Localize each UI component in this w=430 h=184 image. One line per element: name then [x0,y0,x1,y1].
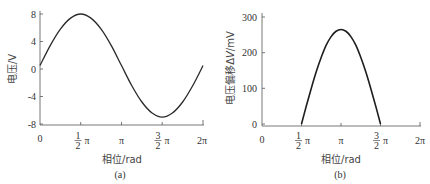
chart-b-ytick-0: 0 [252,119,257,130]
chart-b-x-axis-label: 相位/rad [321,153,361,165]
svg-text:π: π [84,135,89,146]
chart-a-ytick-0: 0 [31,64,36,75]
chart-b-xtick-half-pi: 1 2 π [295,130,310,151]
chart-b-xtick-0: 0 [260,134,265,145]
chart-a-voltage-curve [40,14,203,117]
figure: 8 4 0 -4 -8 0 1 2 π π 3 2 π 2π 相位/rad [0,0,430,184]
chart-a-xtick-2pi: 2π [197,135,207,146]
chart-a-x-ticks [81,120,203,125]
chart-b-xtick-pi: π [338,135,343,146]
chart-a-y-ticks [40,14,43,124]
svg-text:2: 2 [296,140,301,151]
chart-b-x-ticks [302,122,421,126]
chart-b-y-axis-label: 电压偏移ΔV/mV [224,31,236,105]
svg-text:π: π [164,135,169,146]
chart-a-caption: (a) [114,169,125,181]
chart-a-xtick-three-half-pi: 3 2 π [155,130,170,151]
chart-b-ytick-100: 100 [242,83,257,94]
chart-a-xtick-pi: π [119,135,124,146]
chart-b-voltage-offset-curve [302,29,381,124]
svg-text:π: π [305,135,310,146]
chart-a-xtick-0: 0 [38,133,43,144]
chart-b-xtick-three-half-pi: 3 2 π [373,130,388,151]
chart-b-ytick-200: 200 [242,47,257,58]
chart-b-caption: (b) [334,169,346,181]
chart-a-ytick-neg8: -8 [28,119,36,130]
svg-text:2: 2 [374,140,379,151]
chart-b-xtick-2pi: 2π [415,135,425,146]
chart-b-ytick-300: 300 [242,12,257,23]
svg-text:2: 2 [156,140,161,151]
chart-a-y-axis-label: 电压/V [6,54,18,84]
chart-a-xtick-half-pi: 1 2 π [75,130,90,151]
chart-b-y-ticks [262,17,265,124]
chart-a-x-axis-label: 相位/rad [102,153,142,165]
chart-a-ytick-4: 4 [31,36,36,47]
svg-text:2: 2 [76,140,81,151]
chart-a-ytick-neg4: -4 [28,91,36,102]
chart-b: 300 200 100 0 0 1 2 π π 3 2 π 2π 相位/rad … [224,12,425,182]
svg-text:π: π [383,135,388,146]
chart-a: 8 4 0 -4 -8 0 1 2 π π 3 2 π 2π 相位/rad [6,9,207,182]
chart-a-ytick-8: 8 [31,9,36,20]
